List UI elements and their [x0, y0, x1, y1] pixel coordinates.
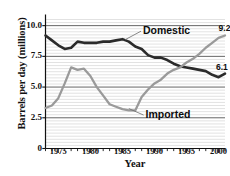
chart-figure: Barrels per day (millions) 02.55.07.510.… [0, 0, 230, 176]
x-tick-label: 1990 [146, 146, 163, 156]
x-tick-label: 1975 [50, 146, 67, 156]
x-tick-label: 1985 [114, 146, 131, 156]
series-annotation-imported: Imported [146, 108, 191, 120]
x-axis-title: Year [45, 158, 225, 169]
series-annotation-domestic: Domestic [143, 24, 190, 36]
end-value-label-domestic: 6.1 [216, 62, 228, 72]
x-tick-label: 1995 [178, 146, 195, 156]
leader-line-domestic [125, 31, 141, 40]
x-tick-label: 2000 [210, 146, 227, 156]
end-value-label-imported: 9.2 [219, 23, 230, 33]
x-tick-label: 1980 [82, 146, 99, 156]
